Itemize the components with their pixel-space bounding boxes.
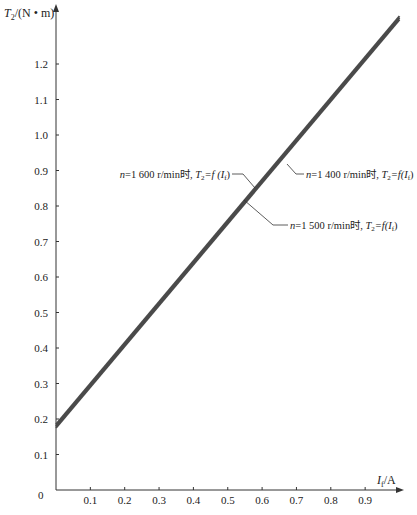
x-axis-arrow-icon bbox=[396, 487, 404, 493]
y-tick-label: 0.2 bbox=[34, 413, 48, 425]
y-tick-label: 1.0 bbox=[34, 129, 48, 141]
annotation-n1400: n=1 400 r/min时, T2=f(If) bbox=[306, 169, 414, 182]
leader-line-1400 bbox=[287, 164, 304, 174]
y-tick-label: 0.9 bbox=[34, 165, 48, 177]
y-tick-label: 1.1 bbox=[34, 94, 48, 106]
y-tick-label: 0.6 bbox=[34, 271, 48, 283]
leader-line-1500 bbox=[244, 200, 288, 225]
y-tick-label: 0.5 bbox=[34, 307, 48, 319]
leader-line-1600 bbox=[232, 174, 255, 188]
y-tick-label: 1.2 bbox=[34, 58, 48, 70]
y-ticks: 0.10.20.30.40.50.60.70.80.91.01.11.2 bbox=[34, 58, 59, 461]
y-tick-label: 0.8 bbox=[34, 200, 48, 212]
x-tick-label: 0.4 bbox=[187, 494, 201, 506]
annotation-n1500: n=1 500 r/min时, T2=f(If) bbox=[290, 220, 398, 233]
origin-label: 0 bbox=[38, 489, 44, 501]
x-axis-title: If/A bbox=[376, 473, 396, 489]
x-tick-label: 0.6 bbox=[255, 494, 269, 506]
x-tick-label: 0.2 bbox=[118, 494, 132, 506]
x-tick-label: 0.8 bbox=[324, 494, 338, 506]
torque-vs-field-current-chart: 0.10.20.30.40.50.60.70.80.91.01.11.2 0.1… bbox=[0, 0, 417, 515]
x-tick-label: 0.5 bbox=[221, 494, 235, 506]
x-tick-label: 0.3 bbox=[152, 494, 166, 506]
y-tick-label: 0.4 bbox=[34, 342, 48, 354]
y-tick-label: 0.3 bbox=[34, 378, 48, 390]
y-axis-title: T2/(N • m) bbox=[4, 6, 54, 22]
x-tick-label: 0.7 bbox=[290, 494, 304, 506]
annotation-n1600: n=1 600 r/min时, T2=f (If) bbox=[120, 169, 231, 182]
x-tick-label: 0.1 bbox=[83, 494, 97, 506]
y-tick-label: 0.7 bbox=[34, 236, 48, 248]
x-tick-label: 0.9 bbox=[358, 494, 372, 506]
y-tick-label: 0.1 bbox=[34, 449, 48, 461]
